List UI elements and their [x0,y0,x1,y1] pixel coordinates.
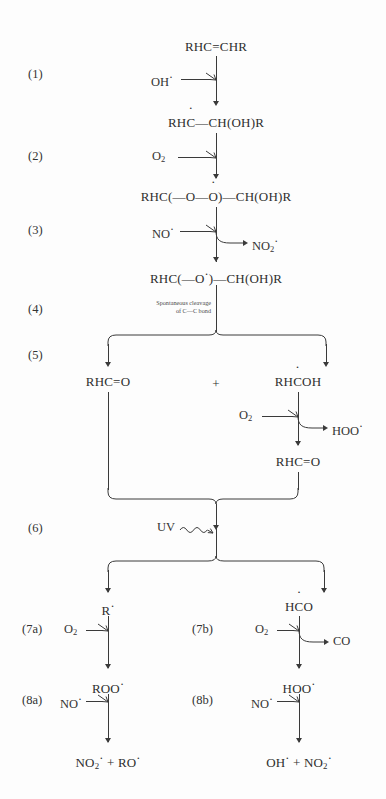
species-carbonyl-left: RHC=O [86,375,130,388]
reactant-o2-step5b: O2 [239,409,252,423]
feed-arrowhead-step1 [205,70,221,88]
reactant-no-step8b: NO· [251,694,273,710]
arrow-head-step8b [296,738,302,743]
species-hydroxyalkyl-radical: RHCOH [275,375,322,388]
step-label-4: (4) [28,303,43,316]
arrow-head-step7b [296,664,302,669]
species-carbonyl-right: RHC=O [276,455,320,468]
elimination-curve-step3 [214,231,254,251]
arrow-head-step5b [295,441,301,446]
branch-right-arrowhead-step7 [321,588,327,593]
elimination-arrowhead-step7b [324,639,329,645]
step-label-6: (6) [28,522,43,535]
product-hoo-step5b: HOO· [332,421,363,437]
step-label-1: (1) [28,68,43,81]
species-alkene: RHC=CHR [185,40,247,53]
arrow-head-step8a [105,738,111,743]
feed-arrowhead-step8b [288,692,304,710]
reactant-o2-step2: O2 [152,150,165,164]
species-peroxy-radical: RHC(—O—O)—CH(OH)R [141,190,292,203]
reactant-o2-step7a: O2 [64,623,77,637]
step-label-2: (2) [28,150,43,163]
arrow-shaft-step4 [216,285,217,332]
reactant-o2-step7b: O2 [255,623,268,637]
reaction-mechanism-diagram: (1) (2) (3) (4) (5) (6) (7a) (7b) (8a) (… [0,0,386,799]
reactant-no-step3: NO· [152,224,174,240]
species-alkyl-radical: R· [102,600,115,617]
reactant-no-step8a: NO· [60,694,82,710]
feed-arrowhead-step8a [97,692,113,710]
species-formyl-radical: HCO [285,600,313,613]
product-co-step7b: CO [333,635,350,648]
merge-junction-step6 [108,488,298,506]
branch-right-arrowhead-step5 [323,362,329,367]
branch-left-arrowhead-step5 [105,362,111,367]
elimination-arrowhead-step3 [243,240,248,246]
elimination-arrowhead-step5b [323,425,328,431]
step-label-7b: (7b) [192,623,213,636]
plus-sign-step5: + [212,377,220,390]
step-label-8a: (8a) [22,694,42,707]
feed-arrowhead-step2 [205,148,221,166]
reactant-uv-step6: UV [157,521,175,534]
step-label-7a: (7a) [22,623,42,636]
reactant-oh-step1: OH· [151,72,173,88]
branch-splitter-step5 [108,330,326,348]
merge-right-shaft [298,472,299,490]
step-label-3: (3) [28,224,43,237]
products-step8b: OH· + NO2· [266,752,332,771]
step-label-8b: (8b) [192,694,213,707]
branch-splitter-step7 [108,556,324,574]
species-beta-hydroxyalkyl-radical: RHC—CH(OH)R [168,116,264,129]
arrow-head-step1 [213,101,219,106]
species-alkoxy-radical: RHC(—O·)—CH(OH)R [150,268,282,285]
annotation-spontaneous-cleavage: Spontaneous cleavage of C—C bond [128,299,211,316]
feed-arrowhead-step7a [97,621,113,639]
merge-left-shaft [108,392,109,490]
step-label-5: (5) [28,349,43,362]
product-no2-step3: NO2· [252,236,278,253]
step6-continuation-shaft [216,531,217,558]
products-step8a: NO2· + RO· [76,752,141,771]
arrow-head-step3 [213,257,219,262]
branch-left-arrowhead-step7 [105,588,111,593]
arrow-head-step7a [105,664,111,669]
uv-wavy-arrow-step6 [180,520,218,540]
